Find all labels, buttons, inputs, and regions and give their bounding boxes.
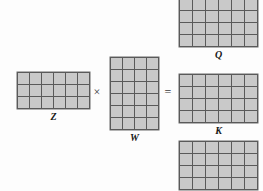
multiply-operator: ×	[88, 86, 106, 98]
matrix-cell	[78, 73, 89, 84]
matrix-cell	[30, 73, 41, 84]
matrix-cell	[42, 97, 53, 108]
matrix-cell	[219, 178, 231, 189]
matrix-cell	[245, 11, 257, 22]
matrix-cell	[206, 0, 218, 10]
matrix-cell	[180, 35, 192, 46]
matrix-cell	[180, 0, 192, 10]
matrix-k-grid	[179, 74, 258, 123]
matrix-cell	[147, 82, 158, 93]
matrix-cell	[245, 142, 257, 153]
matrix-cell	[135, 70, 146, 81]
matrix-cell	[219, 75, 231, 86]
matrix-cell	[111, 106, 122, 117]
matrix-v-grid	[179, 141, 258, 190]
matrix-cell	[180, 154, 192, 165]
matrix-cell	[193, 35, 205, 46]
matrix-cell	[180, 142, 192, 153]
matrix-cell	[232, 178, 244, 189]
matrix-cell	[232, 75, 244, 86]
matrix-cell	[219, 35, 231, 46]
matrix-q: Q	[179, 0, 258, 60]
matrix-cell	[219, 166, 231, 177]
matrix-cell	[180, 99, 192, 110]
matrix-cell	[54, 73, 65, 84]
matrix-cell	[206, 87, 218, 98]
matrix-cell	[42, 85, 53, 96]
matrix-cell	[18, 73, 29, 84]
matrix-cell	[219, 154, 231, 165]
matrix-z-grid	[17, 72, 90, 109]
matrix-cell	[219, 23, 231, 34]
matrix-cell	[219, 99, 231, 110]
matrix-cell	[219, 0, 231, 10]
matrix-cell	[180, 75, 192, 86]
matrix-cell	[123, 70, 134, 81]
matrix-cell	[147, 70, 158, 81]
matrix-cell	[135, 106, 146, 117]
matrix-cell	[135, 82, 146, 93]
matrix-cell	[111, 94, 122, 105]
matrix-cell	[180, 11, 192, 22]
matrix-cell	[18, 85, 29, 96]
matrix-cell	[193, 178, 205, 189]
matrix-cell	[180, 87, 192, 98]
matrix-k: K	[179, 74, 258, 136]
matrix-cell	[135, 58, 146, 69]
matrix-cell	[42, 73, 53, 84]
matrix-cell	[206, 75, 218, 86]
matrix-cell	[193, 99, 205, 110]
matrix-cell	[206, 142, 218, 153]
matrix-cell	[66, 73, 77, 84]
matrix-cell	[232, 23, 244, 34]
matrix-cell	[30, 97, 41, 108]
matrix-cell	[111, 118, 122, 129]
matrix-cell	[180, 111, 192, 122]
matrix-cell	[206, 35, 218, 46]
matrix-cell	[232, 142, 244, 153]
matrix-cell	[123, 58, 134, 69]
matrix-cell	[66, 85, 77, 96]
matrix-cell	[180, 166, 192, 177]
matrix-z-label: Z	[17, 111, 90, 122]
matrix-cell	[54, 97, 65, 108]
matrix-w-label: W	[110, 132, 159, 143]
matrix-cell	[245, 178, 257, 189]
matrix-cell	[219, 11, 231, 22]
matrix-cell	[193, 75, 205, 86]
matrix-cell	[245, 111, 257, 122]
matrix-cell	[66, 97, 77, 108]
matrix-cell	[123, 106, 134, 117]
matrix-q-grid	[179, 0, 258, 47]
matrix-cell	[111, 82, 122, 93]
matrix-cell	[111, 70, 122, 81]
matrix-cell	[232, 0, 244, 10]
matrix-q-label: Q	[179, 49, 258, 60]
matrix-cell	[135, 118, 146, 129]
matrix-cell	[123, 94, 134, 105]
matrix-cell	[232, 35, 244, 46]
matrix-v: V	[179, 141, 258, 191]
matrix-cell	[206, 178, 218, 189]
matrix-cell	[18, 97, 29, 108]
matrix-cell	[245, 35, 257, 46]
matrix-cell	[180, 178, 192, 189]
matrix-cell	[245, 154, 257, 165]
matrix-cell	[206, 166, 218, 177]
matrix-cell	[245, 75, 257, 86]
matrix-cell	[206, 11, 218, 22]
matrix-cell	[245, 99, 257, 110]
matrix-cell	[147, 118, 158, 129]
matrix-cell	[54, 85, 65, 96]
matrix-cell	[193, 111, 205, 122]
matrix-cell	[147, 94, 158, 105]
matrix-w: W	[110, 57, 159, 143]
matrix-cell	[245, 0, 257, 10]
matrix-cell	[232, 166, 244, 177]
matrix-cell	[232, 99, 244, 110]
matrix-cell	[232, 87, 244, 98]
matrix-cell	[206, 111, 218, 122]
matrix-cell	[147, 106, 158, 117]
matrix-cell	[193, 166, 205, 177]
equals-operator: =	[159, 86, 177, 98]
